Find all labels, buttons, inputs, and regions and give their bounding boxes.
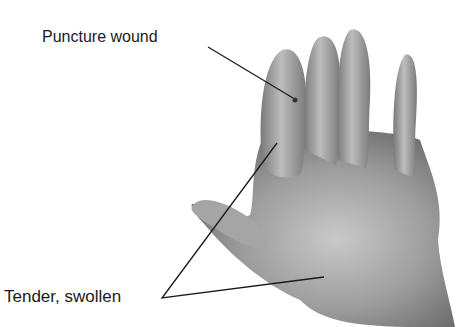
puncture-mark bbox=[293, 98, 298, 103]
hand-illustration bbox=[0, 0, 476, 327]
hand-shape bbox=[192, 29, 455, 327]
tender-swollen-label: Tender, swollen bbox=[4, 287, 121, 307]
puncture-wound-label: Puncture wound bbox=[42, 28, 158, 46]
